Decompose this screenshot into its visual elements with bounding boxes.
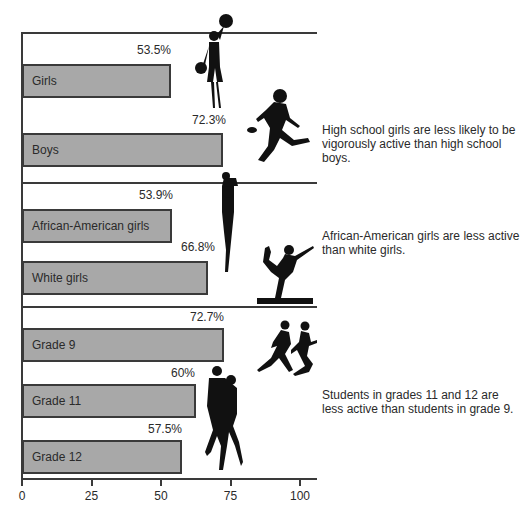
bar-value-label: 72.7% bbox=[190, 310, 224, 324]
x-tick bbox=[299, 480, 301, 486]
bar-category-label: African-American girls bbox=[32, 219, 149, 233]
bar-value-label: 57.5% bbox=[148, 422, 182, 436]
bar-value-label: 53.5% bbox=[137, 43, 171, 57]
bar-white-girls: White girls bbox=[22, 261, 208, 295]
bar-value-label: 60% bbox=[171, 366, 195, 380]
annotation-text: African-American girls are less active t… bbox=[322, 229, 522, 257]
bar-value-label: 66.8% bbox=[181, 240, 215, 254]
annotation-text: High school girls are less likely to be … bbox=[322, 123, 522, 165]
gymnast-silhouette-icon bbox=[255, 242, 315, 306]
bar-value-label: 72.3% bbox=[192, 113, 226, 127]
x-tick-label: 100 bbox=[290, 489, 310, 503]
x-tick bbox=[21, 480, 23, 486]
group-divider-2 bbox=[21, 306, 317, 308]
x-tick-label: 50 bbox=[154, 489, 167, 503]
x-tick-label: 25 bbox=[85, 489, 98, 503]
bar-category-label: White girls bbox=[32, 271, 88, 285]
bar-grade-12: Grade 12 bbox=[22, 440, 182, 474]
bar-category-label: Grade 11 bbox=[32, 394, 81, 408]
group-divider-1 bbox=[21, 182, 317, 184]
x-tick bbox=[160, 480, 162, 486]
x-tick bbox=[91, 480, 93, 486]
bar-category-label: Boys bbox=[32, 143, 59, 157]
bar-girls: Girls bbox=[22, 64, 171, 98]
bar-grade-11: Grade 11 bbox=[22, 384, 196, 418]
basketball-player-silhouette-icon bbox=[216, 172, 244, 280]
x-tick-label: 75 bbox=[224, 489, 237, 503]
bar-category-label: Grade 9 bbox=[32, 338, 75, 352]
bar-boys: Boys bbox=[22, 133, 223, 167]
bar-african-american-girls: African-American girls bbox=[22, 209, 172, 243]
football-player-silhouette-icon bbox=[246, 88, 318, 168]
runners-silhouette-icon bbox=[255, 320, 317, 384]
dancing-couple-silhouette-icon bbox=[203, 366, 245, 474]
cheerleader-silhouette-icon bbox=[193, 12, 239, 112]
x-axis-line bbox=[21, 478, 317, 480]
bar-chart: Girls53.5%Boys72.3%African-American girl… bbox=[0, 0, 527, 522]
bar-category-label: Grade 12 bbox=[32, 450, 82, 464]
annotation-text: Students in grades 11 and 12 are less ac… bbox=[322, 388, 522, 416]
top-rule bbox=[21, 32, 317, 34]
x-tick-label: 0 bbox=[19, 489, 26, 503]
bar-grade-9: Grade 9 bbox=[22, 328, 224, 362]
bar-value-label: 53.9% bbox=[139, 188, 173, 202]
x-tick bbox=[230, 480, 232, 486]
bar-category-label: Girls bbox=[32, 74, 57, 88]
